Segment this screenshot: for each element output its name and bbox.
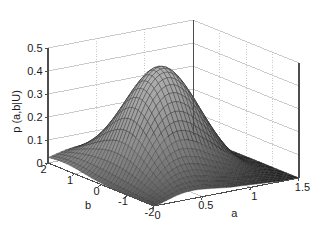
z-tick-label: 0.3 [27, 88, 42, 100]
b-tick-label: 2 [40, 163, 46, 175]
a-tick-label: 1 [251, 190, 257, 202]
b-tick-label: -1 [118, 195, 128, 207]
z-tick-label: 0.1 [27, 134, 42, 146]
z-axis-title: p (a,b|U) [10, 90, 22, 133]
b-tick-label: 0 [93, 185, 99, 197]
a-axis-title: a [231, 207, 238, 219]
b-axis-title: b [85, 199, 91, 211]
z-tick-label: 0.2 [27, 111, 42, 123]
z-tick-label: 0.4 [27, 65, 42, 77]
surface-plot: 00.10.20.30.40.5210-1-200.511.5p (a,b|U)… [0, 0, 325, 235]
a-tick-label: 0 [154, 209, 160, 221]
a-tick-label: 0.5 [198, 199, 213, 211]
a-tick-label: 1.5 [295, 181, 310, 193]
z-tick-label: 0.5 [27, 42, 42, 54]
b-tick-label: -2 [145, 206, 155, 218]
b-tick-label: 1 [67, 174, 73, 186]
figure-canvas: 00.10.20.30.40.5210-1-200.511.5p (a,b|U)… [0, 0, 325, 235]
